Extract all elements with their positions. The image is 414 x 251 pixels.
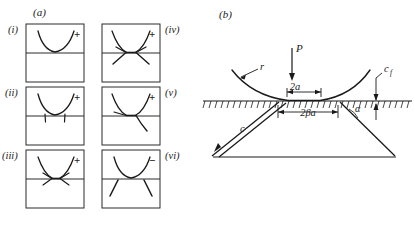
subpanel-i-sign: + [74, 28, 80, 40]
panel-a-label: (a) [33, 6, 46, 19]
dim-2ba-label: 2βa [300, 107, 316, 118]
subpanel-iii-label: (iii) [2, 150, 18, 162]
load-label-P: P [295, 42, 303, 54]
subpanel-vi-label: (vi) [165, 150, 180, 162]
contact-mechanics-figure: (a) + (i) + (ii) [0, 0, 414, 251]
subpanel-ii-label: (ii) [5, 87, 18, 99]
subpanel-i-label: (i) [8, 24, 18, 36]
subpanel-iii-sign: + [74, 154, 80, 166]
subpanel-v-sign: + [149, 91, 155, 103]
cone-length-label-c: c [240, 123, 245, 134]
subpanel-vi-sign: − [149, 154, 155, 166]
subpanel-v-label: (v) [165, 87, 177, 99]
dim-2a-label: 2a [290, 81, 301, 92]
subpanel-iv-sign: + [149, 28, 155, 40]
cone-angle-label-alpha: α [355, 103, 361, 114]
subpanel-ii-ring-crack-right [65, 114, 66, 122]
panel-b-label: (b) [219, 8, 232, 21]
subpanel-ii-sign: + [74, 91, 80, 103]
subpanel-iv-label: (iv) [165, 24, 180, 36]
subpanel-ii-ring-crack-left [45, 114, 46, 122]
surface-flaw-label-c: c [384, 63, 389, 74]
